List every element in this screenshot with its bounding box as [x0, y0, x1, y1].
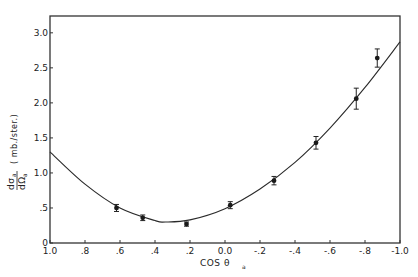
x-tick-label: -.6 [324, 246, 336, 256]
data-marker [272, 178, 277, 183]
y-tick-label: 0 [42, 238, 48, 248]
data-marker [184, 222, 189, 227]
data-point [354, 88, 359, 109]
x-axis-label-text: COS θ [200, 258, 230, 268]
y-tick-label: 3.0 [34, 28, 49, 38]
data-marker [375, 56, 380, 61]
data-marker [140, 215, 145, 220]
y-axis-label-numerator: dσ [6, 178, 16, 190]
y-tick-label: 1.0 [34, 168, 49, 178]
x-tick-label: .2 [186, 246, 195, 256]
x-tick-label: -.2 [254, 246, 266, 256]
data-point [314, 137, 319, 150]
y-axis-label-num-sub: a [10, 173, 17, 177]
y-axis-label: dσ a dΩ a ( mb./ster.) [6, 114, 28, 190]
y-tick-label: 2.0 [34, 98, 49, 108]
data-point [184, 222, 189, 227]
y-axis-label-denominator: dΩ [17, 176, 27, 190]
y-tick-label: 1.5 [34, 133, 48, 143]
y-tick-label: 2.5 [34, 63, 48, 73]
y-axis-label-den-sub: a [21, 173, 28, 177]
data-marker [314, 140, 319, 145]
fit-curve [50, 42, 400, 222]
data-point [375, 49, 380, 67]
y-axis-label-units: ( mb./ster.) [10, 114, 19, 164]
x-tick-label: -.4 [289, 246, 301, 256]
x-tick-label: .8 [81, 246, 90, 256]
x-tick-label: .6 [116, 246, 125, 256]
x-axis-label: COS θ a [200, 258, 246, 270]
data-marker [114, 206, 119, 211]
y-tick-label: .5 [39, 203, 48, 213]
x-tick-label: -1.0 [391, 246, 409, 256]
x-tick-label: -.8 [359, 246, 371, 256]
x-tick-label: .4 [151, 246, 160, 256]
data-marker [354, 96, 359, 101]
x-axis-label-subscript: a [242, 263, 246, 270]
x-tick-label: 0.0 [218, 246, 233, 256]
data-points [114, 49, 380, 227]
data-marker [228, 203, 233, 208]
chart: 1.0.8.6.4.20.0-.2-.4-.6-.8-1.0 0.51.01.5… [0, 0, 418, 277]
